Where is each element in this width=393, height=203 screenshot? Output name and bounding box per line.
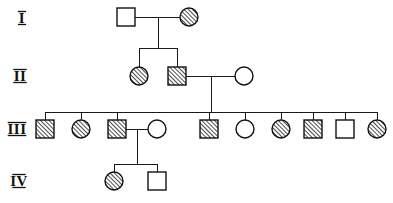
individual-III-9-male-unaffected[interactable]	[336, 120, 354, 138]
individual-III-5-male-affected[interactable]	[200, 120, 218, 138]
individual-II-2-male-affected[interactable]	[168, 67, 186, 85]
individual-III-3-male-affected[interactable]	[108, 120, 126, 138]
individual-IV-1-female-affected[interactable]	[105, 172, 123, 190]
individual-II-1-female-affected[interactable]	[130, 67, 148, 85]
individual-II-3-female-unaffected[interactable]	[235, 67, 253, 85]
generation-label-IV: IV	[10, 173, 28, 189]
generation-label-III: III	[7, 121, 26, 137]
individual-III-8-male-affected[interactable]	[304, 120, 322, 138]
individual-III-6-female-unaffected[interactable]	[236, 120, 254, 138]
individual-I-2-female-affected[interactable]	[180, 8, 198, 26]
pedigree-chart: IIIIIIIV	[0, 0, 393, 203]
generation-label-II: II	[14, 68, 27, 84]
individual-I-1-male-unaffected[interactable]	[117, 8, 135, 26]
generation-label-I: I	[19, 10, 25, 26]
individual-III-1-male-affected[interactable]	[36, 120, 54, 138]
individual-III-10-female-affected[interactable]	[368, 120, 386, 138]
pedigree-canvas: IIIIIIIV	[0, 0, 393, 203]
individual-III-7-female-affected[interactable]	[272, 120, 290, 138]
individual-IV-2-male-unaffected[interactable]	[148, 172, 166, 190]
generation-labels: IIIIIIIV	[7, 10, 27, 189]
individual-III-4-female-unaffected[interactable]	[148, 120, 166, 138]
individual-III-2-female-affected[interactable]	[72, 120, 90, 138]
connector-lines	[45, 17, 377, 172]
